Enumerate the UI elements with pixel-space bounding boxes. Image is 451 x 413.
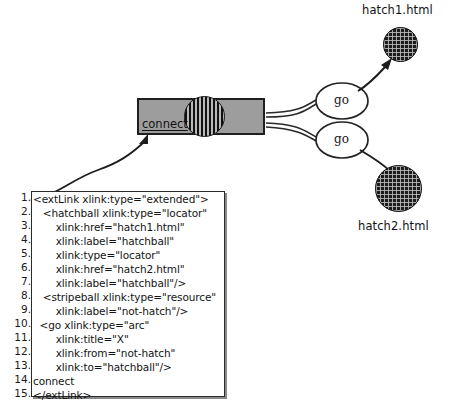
go-arc-label-2: go <box>334 132 349 146</box>
code-listing: 1. 2. 3. 4. 5. 6. 7. 8. 9. 10. 11. 12. 1… <box>12 190 230 402</box>
code-line: xlink:label="not-hatch"/> <box>33 304 233 318</box>
arrow-go1-to-hatch1 <box>358 67 385 91</box>
line-number: 15. <box>12 386 31 400</box>
line-number: 2. <box>12 204 31 218</box>
code-line: <extLink xlink:type="extended"> <box>33 192 233 206</box>
line-number: 12. <box>12 344 31 358</box>
code-line: xlink:href="hatch2.html" <box>33 262 233 276</box>
code-line: <hatchball xlink:type="locator" <box>33 206 233 220</box>
stripeball-circle-icon <box>184 96 225 137</box>
line-number: 8. <box>12 288 31 302</box>
line-number: 3. <box>12 218 31 232</box>
code-line: xlink:label="hatchball" <box>33 234 233 248</box>
code-line: xlink:label="hatchball"/> <box>33 276 233 290</box>
code-line: <go xlink:type="arc" <box>33 318 233 332</box>
line-number-gutter: 1. 2. 3. 4. 5. 6. 7. 8. 9. 10. 11. 12. 1… <box>12 190 31 400</box>
code-line: xlink:href="hatch1.html" <box>33 220 233 234</box>
code-line: xlink:type="locator" <box>33 248 233 262</box>
line-number: 7. <box>12 274 31 288</box>
go-arc-label-1: go <box>334 93 349 107</box>
callout-arrowhead <box>139 134 148 144</box>
line-number: 11. <box>12 330 31 344</box>
code-line: xlink:title="X" <box>33 332 233 346</box>
line-number: 4. <box>12 232 31 246</box>
line-number: 13. <box>12 358 31 372</box>
line-number: 10. <box>12 316 31 330</box>
code-line: xlink:to="hatchball"/> <box>33 360 233 374</box>
line-number: 5. <box>12 246 31 260</box>
line-number: 1. <box>12 190 31 204</box>
code-line: </extLink> <box>33 388 233 402</box>
diagram-canvas: connect go go hatch1.html hatch2.html 1.… <box>0 0 451 413</box>
hatchball-circle-icon-2 <box>375 165 422 212</box>
line-number: 6. <box>12 260 31 274</box>
hatch1-label: hatch1.html <box>362 3 433 17</box>
line-number: 14. <box>12 372 31 386</box>
hatch2-label: hatch2.html <box>358 219 429 233</box>
code-line: connect <box>33 374 233 388</box>
hatchball-circle-icon-1 <box>383 27 418 62</box>
code-line: xlink:from="not-hatch" <box>33 346 233 360</box>
code-line: <stripeball xlink:type="resource" <box>33 290 233 304</box>
line-number: 9. <box>12 302 31 316</box>
code-text-block: <extLink xlink:type="extended"> <hatchba… <box>33 192 233 402</box>
connector-to-go-1 <box>266 100 316 113</box>
connect-label: connect <box>142 117 188 131</box>
